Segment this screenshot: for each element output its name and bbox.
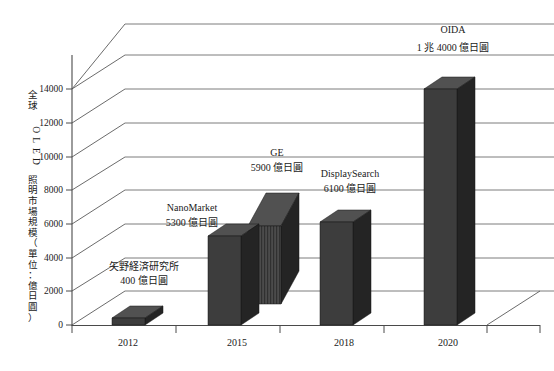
bar-side-face	[241, 224, 259, 325]
y-axis-title-char: O	[31, 126, 41, 133]
y-axis-title-char: 球	[28, 100, 38, 111]
y-tick-label: 2000	[44, 286, 63, 296]
y-tick-label: 14000	[39, 84, 63, 94]
y-axis-title-char: 位	[28, 259, 38, 270]
y-axis-title-char: 規	[28, 217, 38, 227]
bar-front-face	[424, 89, 457, 325]
bar-chart-3d: 14000 12000 10000 8000 6000 4000 2000 0 …	[0, 0, 554, 371]
annotation-value: 5300 億日圓	[166, 216, 219, 228]
x-tick-label-2012: 2012	[118, 337, 138, 348]
y-axis-title-char: 明	[28, 185, 38, 195]
annotation-name: OIDA	[441, 24, 467, 35]
annotation-name: NanoMarket	[167, 202, 218, 213]
y-axis-title-char: 市	[28, 195, 38, 206]
bar-side-face	[353, 210, 371, 325]
y-axis-title-char: ：	[28, 270, 38, 280]
annotation-name: GE	[270, 147, 283, 158]
bar-2018-displaysearch[interactable]	[320, 210, 371, 325]
bar-2020-oida[interactable]	[424, 77, 475, 325]
y-axis-title-char: 億	[28, 280, 38, 291]
y-tick-label: 12000	[39, 118, 63, 128]
x-tick-label-2018: 2018	[334, 337, 354, 348]
y-tick-label: 10000	[39, 152, 63, 162]
y-axis-title-char: 日	[28, 291, 38, 301]
y-axis-title-char: 場	[28, 206, 38, 217]
annotation-value: 5900 億日圓	[251, 161, 304, 173]
chart-container: 14000 12000 10000 8000 6000 4000 2000 0 …	[0, 0, 554, 371]
y-axis-title-char: 模	[28, 227, 38, 238]
y-tick-label: 6000	[44, 219, 63, 229]
y-axis-title-char: 單	[28, 249, 38, 259]
y-axis-title-char: E	[31, 148, 41, 154]
y-axis-title-char: L	[31, 137, 41, 143]
y-tick-label: 8000	[44, 185, 63, 195]
x-tick-label-2020: 2020	[438, 337, 458, 348]
y-axis-title-char: 全	[28, 89, 38, 100]
bar-front-face	[320, 222, 353, 325]
annotation-value: 1 兆 4000 億日圓	[417, 41, 490, 53]
y-axis-title-char: （	[28, 237, 38, 248]
annotation-name: DisplaySearch	[321, 168, 379, 179]
y-tick-label: 4000	[44, 253, 63, 263]
annotation-value: 400 億日圓	[120, 274, 168, 286]
bar-side-face	[457, 77, 475, 325]
bar-front-face	[112, 318, 145, 325]
bar-front-face	[208, 236, 241, 325]
annotation-value: 6100 億日圓	[324, 182, 377, 194]
bar-2015-nanomarket[interactable]	[208, 224, 259, 325]
y-axis-title-char: D	[31, 158, 41, 165]
y-axis-title-char: ）	[28, 312, 38, 323]
y-tick-label: 0	[58, 320, 63, 330]
y-axis-title-char: 照	[28, 175, 38, 185]
x-tick-label-2015: 2015	[227, 337, 247, 348]
annotation-name: 矢野経済研究所	[109, 260, 179, 272]
y-axis-title-char: 圓	[28, 302, 38, 312]
